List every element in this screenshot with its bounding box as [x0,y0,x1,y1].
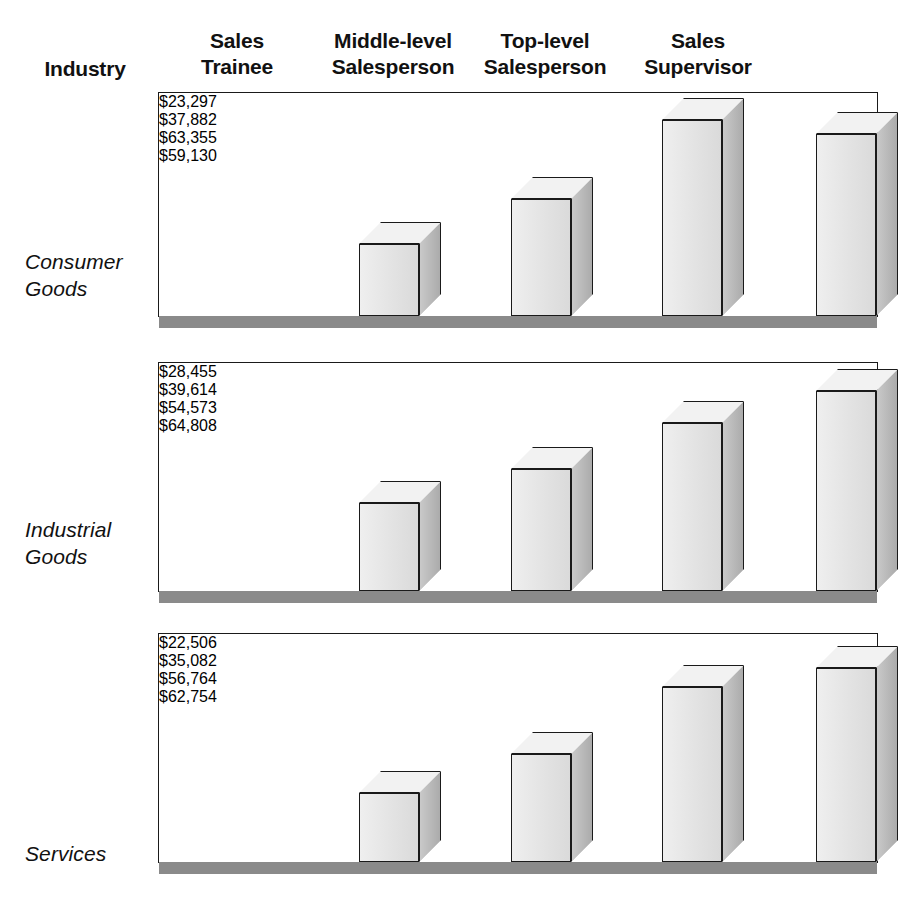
bar-value-label: $28,455 [159,363,877,381]
chart-sheet: Industry Sales Trainee Middle-level Sale… [0,0,919,910]
header-column-sales-supervisor: Sales Supervisor [608,28,788,80]
bar-value-label: $23,297 [159,93,877,111]
bar-value-label: $64,808 [159,417,877,435]
bar-value-label: $22,506 [159,634,877,652]
bar-value-label: $56,764 [159,670,877,688]
panel-services: $22,506$35,082$56,764$62,754 [158,633,878,863]
panel-consumer-goods: $23,297$37,882$63,355$59,130 [158,92,878,317]
bar-3d [662,401,744,591]
bar-value-label: $54,573 [159,399,877,417]
bar-3d [662,98,744,316]
bar-front-face [816,134,876,316]
bar-side-face [571,177,593,316]
bar-3d [359,481,441,591]
panel-floor [159,862,877,874]
panel-floor [159,316,877,328]
bar-value-label: $35,082 [159,652,877,670]
header-industry: Industry [20,56,150,82]
bar-front-face [511,469,571,591]
bar-value-label: $39,614 [159,381,877,399]
bar-front-face [359,244,419,316]
bar-value-label: $63,355 [159,129,877,147]
bar-front-face [816,668,876,862]
bar-side-face [876,369,898,591]
bar-front-face [511,754,571,862]
bar-value-label: $37,882 [159,111,877,129]
bar-side-face [876,112,898,316]
row-label-consumer-goods: Consumer Goods [25,248,165,302]
bar-3d [816,646,898,862]
bar-side-face [722,98,744,316]
bar-3d [511,447,593,591]
bar-side-face [722,665,744,862]
bar-side-face [571,447,593,591]
bar-3d [511,732,593,862]
panel-industrial-goods: $28,455$39,614$54,573$64,808 [158,362,878,592]
bar-side-face [876,646,898,862]
header-column-sales-trainee: Sales Trainee [157,28,317,80]
bar-front-face [816,391,876,591]
bar-3d [359,222,441,316]
bar-value-label: $62,754 [159,688,877,706]
row-label-services: Services [25,840,165,867]
row-label-industrial-goods: Industrial Goods [25,516,165,570]
bar-front-face [662,687,722,862]
bar-3d [662,665,744,862]
bar-3d [359,771,441,862]
panel-floor [159,591,877,603]
bar-side-face [722,401,744,591]
bar-3d [816,112,898,316]
bar-front-face [359,793,419,862]
bar-front-face [662,120,722,316]
bar-3d [511,177,593,316]
bar-front-face [662,423,722,591]
bar-value-label: $59,130 [159,147,877,165]
bar-front-face [511,199,571,316]
bar-3d [816,369,898,591]
bar-front-face [359,503,419,591]
bar-side-face [571,732,593,862]
